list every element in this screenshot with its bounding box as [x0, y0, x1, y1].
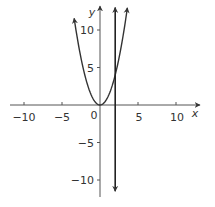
origin-label: 0 — [91, 109, 98, 122]
y-axis-label: y — [88, 6, 96, 19]
y-tick-label: 10 — [80, 24, 94, 37]
y-tick-label: −10 — [71, 174, 94, 187]
x-tick-label: −10 — [12, 111, 35, 124]
graph-canvas: −10 −5 5 10 0 10 5 −5 −10 x y — [0, 0, 215, 207]
y-tick-label: 5 — [87, 62, 94, 75]
parabola-curve — [74, 8, 127, 105]
y-tick-label: −5 — [78, 137, 94, 150]
x-tick-label: −5 — [54, 111, 70, 124]
x-tick-label: 5 — [136, 111, 143, 124]
x-axis-label: x — [191, 107, 199, 120]
x-tick-label: 10 — [170, 111, 184, 124]
